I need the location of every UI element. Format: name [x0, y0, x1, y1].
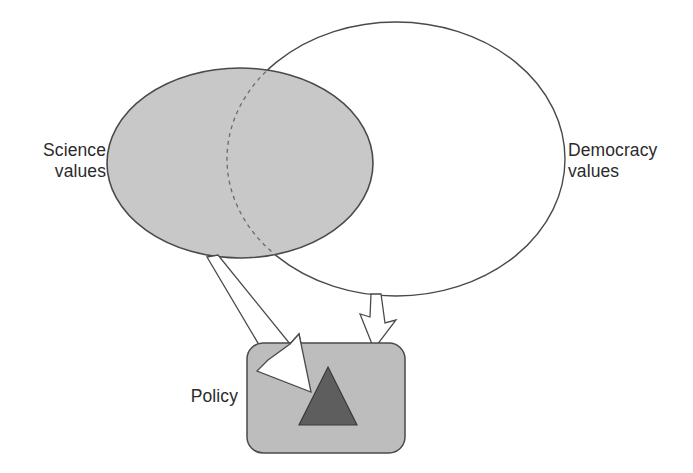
venn-policy-diagram: Science values Democracy values Policy — [0, 0, 693, 473]
democracy-values-label: Democracy values — [568, 140, 688, 182]
democracy-to-policy-arrow — [360, 294, 396, 349]
policy-label: Policy — [150, 386, 238, 407]
diagram-canvas — [0, 0, 693, 473]
science-values-ellipse — [107, 68, 373, 258]
science-values-label: Science values — [8, 140, 106, 182]
